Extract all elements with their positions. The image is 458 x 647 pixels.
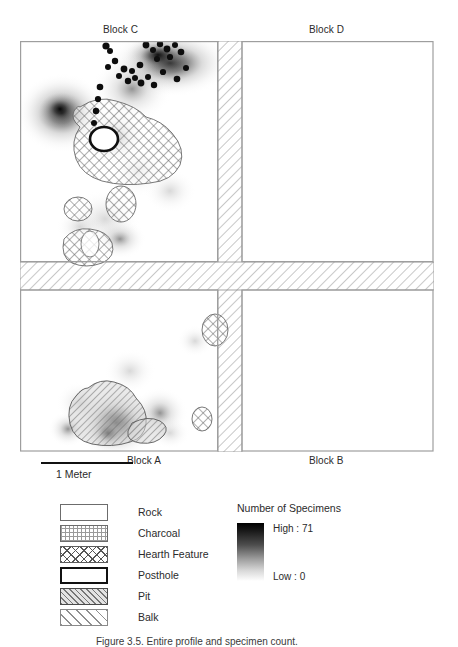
hearth-feature-swatch: [60, 546, 108, 563]
legend-item-hearth: Hearth Feature: [60, 544, 209, 564]
legend-item-posthole: Posthole: [60, 565, 209, 585]
balk-swatch: [60, 609, 108, 626]
balk-vertical: [218, 41, 242, 452]
balk-horizontal: [20, 262, 434, 290]
rock-outline-group: [81, 231, 99, 257]
specimen-gradient-bar: [237, 523, 264, 581]
posthole-swatch: [60, 567, 108, 584]
block-label-c: Block C: [103, 24, 138, 35]
scale-bar-line: [41, 462, 133, 464]
rock-swatch: [60, 504, 108, 521]
pit-swatch: [60, 588, 108, 605]
legend-label-hearth: Hearth Feature: [138, 548, 209, 560]
legend-item-balk: Balk: [60, 607, 209, 627]
legend-label-balk: Balk: [138, 611, 158, 623]
charcoal-swatch: [60, 525, 108, 542]
legend-label-posthole: Posthole: [138, 569, 179, 581]
excavation-map: [20, 41, 434, 452]
specimen-legend-title: Number of Specimens: [237, 502, 341, 514]
legend-label-rock: Rock: [138, 506, 162, 518]
specimen-high-label: High : 71: [273, 523, 313, 534]
figure-caption: Figure 3.5. Entire profile and specimen …: [96, 636, 298, 647]
scale-bar: 1 Meter: [41, 462, 133, 464]
block-label-d: Block D: [309, 24, 344, 35]
legend-item-pit: Pit: [60, 586, 209, 606]
legend-label-charcoal: Charcoal: [138, 527, 180, 539]
specimen-count-legend: Number of Specimens High : 71 Low : 0: [237, 502, 341, 581]
posthole-outline: [90, 127, 118, 151]
legend-item-charcoal: Charcoal: [60, 523, 209, 543]
specimen-low-label: Low : 0: [273, 571, 305, 582]
block-label-b: Block B: [309, 455, 344, 466]
block-label-a: Block A: [127, 455, 161, 466]
legend-item-rock: Rock: [60, 502, 209, 522]
scale-bar-label: 1 Meter: [56, 468, 92, 480]
feature-legend: Rock Charcoal Hearth Feature Posthole Pi…: [60, 502, 209, 628]
map-canvas: [20, 41, 434, 452]
legend-label-pit: Pit: [138, 590, 150, 602]
